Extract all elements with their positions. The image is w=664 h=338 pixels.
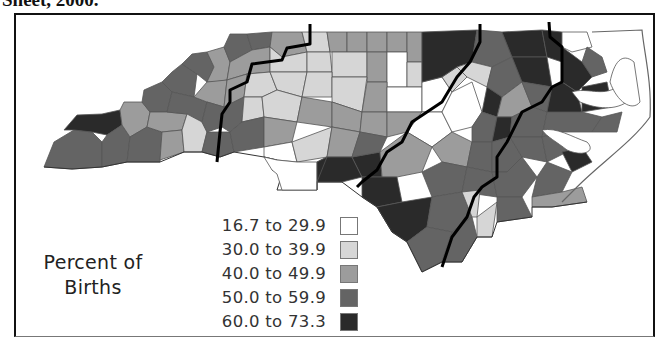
county xyxy=(264,157,317,190)
county xyxy=(44,130,102,169)
legend-label: 30.0 to 39.9 xyxy=(222,239,326,261)
legend-swatch xyxy=(340,265,358,283)
county xyxy=(297,97,332,127)
legend-item: 60.0 to 73.3 xyxy=(176,311,366,335)
legend-title: Percent of Births xyxy=(38,250,148,300)
county xyxy=(160,130,184,160)
legend-swatch xyxy=(340,289,358,307)
legend-item: 16.7 to 29.9 xyxy=(176,215,366,239)
county xyxy=(387,87,422,112)
county xyxy=(302,72,332,97)
map-frame: Percent of Births 16.7 to 29.9 30.0 to 3… xyxy=(14,13,655,337)
county xyxy=(422,162,467,197)
legend-label: 40.0 to 49.9 xyxy=(222,263,326,285)
county xyxy=(147,112,187,132)
legend-swatch xyxy=(340,217,358,235)
legend-label: 50.0 to 59.9 xyxy=(222,287,326,309)
county xyxy=(367,32,387,52)
figure-caption: Sheet, 2000. xyxy=(2,0,99,11)
legend-item: 50.0 to 59.9 xyxy=(176,287,366,311)
legend-swatch xyxy=(340,241,358,259)
county xyxy=(347,32,367,52)
county xyxy=(327,32,347,52)
legend-label: 16.7 to 29.9 xyxy=(222,215,326,237)
county xyxy=(292,127,332,162)
county xyxy=(307,52,332,72)
county xyxy=(367,52,387,82)
legend-item: 40.0 to 49.9 xyxy=(176,263,366,287)
legend-title-line1: Percent of xyxy=(38,250,148,275)
county xyxy=(387,32,407,52)
county xyxy=(407,32,422,62)
county xyxy=(332,52,367,77)
county xyxy=(407,62,422,87)
legend-label: 60.0 to 73.3 xyxy=(222,311,326,333)
legend-item: 30.0 to 39.9 xyxy=(176,239,366,263)
legend-title-line2: Births xyxy=(38,275,148,300)
county xyxy=(362,177,402,207)
legend-swatch xyxy=(340,313,358,331)
county xyxy=(387,52,407,87)
county xyxy=(302,32,330,52)
